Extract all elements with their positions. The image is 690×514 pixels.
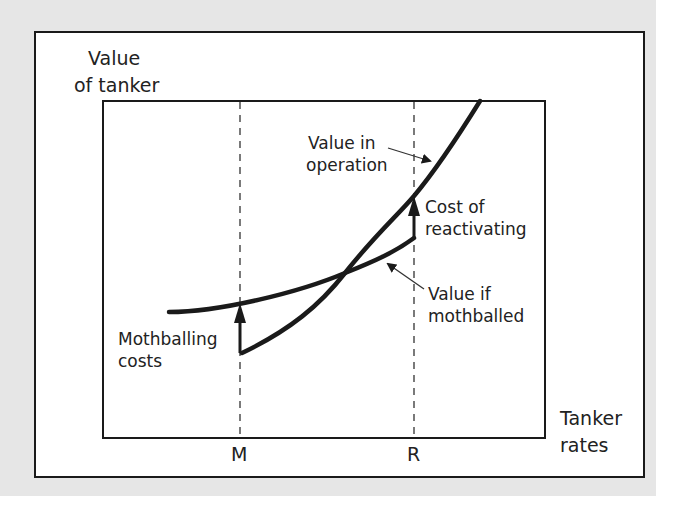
x-tick-r: R	[407, 441, 420, 468]
value-in-operation-line2: operation	[306, 154, 388, 176]
y-axis-label-line2: of tanker	[74, 72, 159, 99]
x-axis-label: Tanker rates	[560, 405, 622, 459]
value-if-mothballed-line1: Value if	[428, 283, 524, 305]
y-axis-label-line1: Value	[74, 45, 159, 72]
x-axis-label-line1: Tanker	[560, 405, 622, 432]
value-if-mothballed-line2: mothballed	[428, 305, 524, 327]
value-in-operation-leader-arrow	[388, 148, 430, 161]
value-in-operation-label: Value in operation	[306, 132, 388, 176]
mothballing-costs-line2: costs	[118, 350, 217, 372]
cost-of-reactivating-label: Cost of reactivating	[425, 196, 527, 240]
value-if-mothballed-leader-arrow	[388, 264, 424, 289]
x-tick-m: M	[231, 441, 247, 468]
value-if-mothballed-label: Value if mothballed	[428, 283, 524, 327]
y-axis-label: Value of tanker	[74, 45, 159, 99]
mothballing-costs-label: Mothballing costs	[118, 328, 217, 372]
mothballing-costs-line1: Mothballing	[118, 328, 217, 350]
value-in-operation-line1: Value in	[306, 132, 388, 154]
cost-of-reactivating-line2: reactivating	[425, 218, 527, 240]
x-axis-label-line2: rates	[560, 432, 622, 459]
value-if-mothballed-curve	[169, 238, 414, 312]
cost-of-reactivating-line1: Cost of	[425, 196, 527, 218]
